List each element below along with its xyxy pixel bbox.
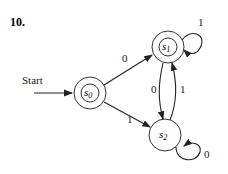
svg-text:1: 1 (127, 113, 133, 125)
problem-number: 10. (10, 15, 25, 29)
state-diagram: 10. Start s0 s1 s2 0 1 1 0 (0, 0, 228, 174)
start-label: Start (22, 74, 43, 86)
svg-text:s0: s0 (84, 86, 92, 100)
transition-s2-s1: 1 (170, 63, 186, 120)
state-s0: s0 (74, 77, 106, 109)
transition-s0-s1: 0 (104, 52, 152, 85)
transition-s2-s2: 0 (176, 143, 210, 160)
svg-text:0: 0 (204, 148, 210, 160)
svg-text:s1: s1 (162, 40, 170, 54)
start-arrow: Start (22, 74, 72, 93)
svg-text:1: 1 (180, 83, 186, 95)
svg-text:1: 1 (198, 16, 204, 28)
svg-text:0: 0 (151, 83, 157, 95)
svg-text:s2: s2 (159, 128, 167, 142)
state-s2: s2 (149, 119, 181, 151)
transition-s0-s2: 1 (104, 102, 150, 127)
state-s1: s1 (152, 31, 184, 63)
svg-text:0: 0 (122, 52, 128, 64)
transition-s1-s1: 1 (182, 16, 204, 54)
transition-s1-s2: 0 (151, 63, 163, 119)
